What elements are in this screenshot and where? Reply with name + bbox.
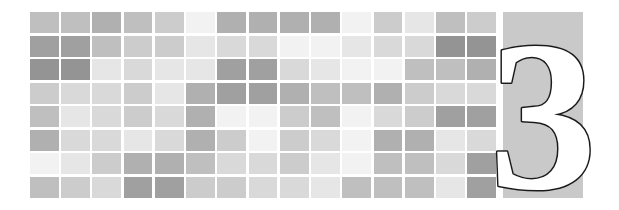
mosaic-cell bbox=[249, 83, 278, 104]
mosaic-cell bbox=[249, 59, 278, 80]
mosaic-cell bbox=[155, 106, 184, 127]
mosaic-cell bbox=[249, 12, 278, 33]
mosaic-cell bbox=[280, 59, 309, 80]
mosaic-cell bbox=[249, 36, 278, 57]
mosaic-cell bbox=[186, 177, 215, 198]
mosaic-cell bbox=[155, 177, 184, 198]
mosaic-cell bbox=[186, 12, 215, 33]
mosaic-cell bbox=[405, 177, 434, 198]
mosaic-cell bbox=[374, 83, 403, 104]
mosaic-cell bbox=[342, 36, 371, 57]
mosaic-cell bbox=[61, 12, 90, 33]
mosaic-cell bbox=[155, 12, 184, 33]
mosaic-cell bbox=[30, 153, 59, 174]
mosaic-cell bbox=[124, 36, 153, 57]
mosaic-cell bbox=[61, 177, 90, 198]
mosaic-cell bbox=[436, 153, 465, 174]
mosaic-cell bbox=[155, 130, 184, 151]
chapter-opener-banner: 3 bbox=[0, 0, 619, 210]
mosaic-cell bbox=[61, 83, 90, 104]
mosaic-cell bbox=[155, 153, 184, 174]
mosaic-cell bbox=[405, 83, 434, 104]
mosaic-cell bbox=[30, 130, 59, 151]
mosaic-cell bbox=[374, 130, 403, 151]
mosaic-cell bbox=[374, 12, 403, 33]
mosaic-cell bbox=[30, 36, 59, 57]
mosaic-cell bbox=[124, 106, 153, 127]
chapter-number-graphic: 3 bbox=[503, 12, 583, 198]
mosaic-cell bbox=[405, 59, 434, 80]
chapter-number-panel: 3 bbox=[503, 12, 583, 198]
mosaic-cell bbox=[311, 36, 340, 57]
mosaic-cell bbox=[217, 12, 246, 33]
mosaic-cell bbox=[124, 12, 153, 33]
mosaic-cell bbox=[311, 59, 340, 80]
mosaic-cell bbox=[311, 130, 340, 151]
mosaic-cell bbox=[342, 83, 371, 104]
mosaic-cell bbox=[405, 130, 434, 151]
mosaic-cell bbox=[342, 177, 371, 198]
mosaic-cell bbox=[249, 130, 278, 151]
mosaic-cell bbox=[405, 12, 434, 33]
mosaic-cell bbox=[342, 153, 371, 174]
mosaic-cell bbox=[280, 130, 309, 151]
mosaic-cell bbox=[374, 59, 403, 80]
mosaic-cell bbox=[280, 177, 309, 198]
mosaic-cell bbox=[155, 36, 184, 57]
mosaic-cell bbox=[92, 36, 121, 57]
mosaic-cell bbox=[311, 106, 340, 127]
mosaic-cell bbox=[374, 177, 403, 198]
mosaic-cell bbox=[92, 153, 121, 174]
mosaic-cell bbox=[436, 106, 465, 127]
mosaic-cell bbox=[436, 130, 465, 151]
mosaic-cell bbox=[436, 83, 465, 104]
mosaic-cell bbox=[436, 59, 465, 80]
mosaic-cell bbox=[92, 106, 121, 127]
mosaic-cell bbox=[124, 153, 153, 174]
mosaic-cell bbox=[436, 36, 465, 57]
mosaic-cell bbox=[249, 153, 278, 174]
mosaic-cell bbox=[280, 83, 309, 104]
mosaic-cell bbox=[280, 153, 309, 174]
mosaic-cell bbox=[436, 177, 465, 198]
mosaic-cell bbox=[217, 83, 246, 104]
mosaic-cell bbox=[249, 106, 278, 127]
mosaic-cell bbox=[124, 177, 153, 198]
mosaic-cell bbox=[124, 130, 153, 151]
mosaic-cell bbox=[186, 153, 215, 174]
mosaic-cell bbox=[217, 153, 246, 174]
mosaic-grid bbox=[30, 12, 496, 198]
mosaic-cell bbox=[374, 106, 403, 127]
mosaic-cell bbox=[436, 12, 465, 33]
mosaic-cell bbox=[61, 106, 90, 127]
mosaic-cell bbox=[92, 83, 121, 104]
mosaic-cell bbox=[186, 130, 215, 151]
mosaic-cell bbox=[61, 153, 90, 174]
mosaic-cell bbox=[30, 59, 59, 80]
mosaic-cell bbox=[280, 36, 309, 57]
mosaic-cell bbox=[30, 106, 59, 127]
mosaic-cell bbox=[61, 36, 90, 57]
mosaic-cell bbox=[155, 83, 184, 104]
mosaic-cell bbox=[124, 59, 153, 80]
mosaic-cell bbox=[342, 130, 371, 151]
mosaic-cell bbox=[374, 36, 403, 57]
mosaic-cell bbox=[374, 153, 403, 174]
mosaic-cell bbox=[61, 59, 90, 80]
mosaic-cell bbox=[342, 59, 371, 80]
mosaic-cell bbox=[217, 177, 246, 198]
mosaic-cell bbox=[92, 12, 121, 33]
mosaic-cell bbox=[124, 83, 153, 104]
mosaic-cell bbox=[217, 130, 246, 151]
mosaic-cell bbox=[186, 36, 215, 57]
mosaic-cell bbox=[342, 106, 371, 127]
mosaic-cell bbox=[405, 36, 434, 57]
mosaic-cell bbox=[92, 177, 121, 198]
mosaic-cell bbox=[405, 106, 434, 127]
mosaic-cell bbox=[311, 153, 340, 174]
mosaic-cell bbox=[186, 83, 215, 104]
mosaic-cell bbox=[186, 59, 215, 80]
mosaic-cell bbox=[311, 12, 340, 33]
mosaic-cell bbox=[311, 83, 340, 104]
mosaic-cell bbox=[30, 12, 59, 33]
